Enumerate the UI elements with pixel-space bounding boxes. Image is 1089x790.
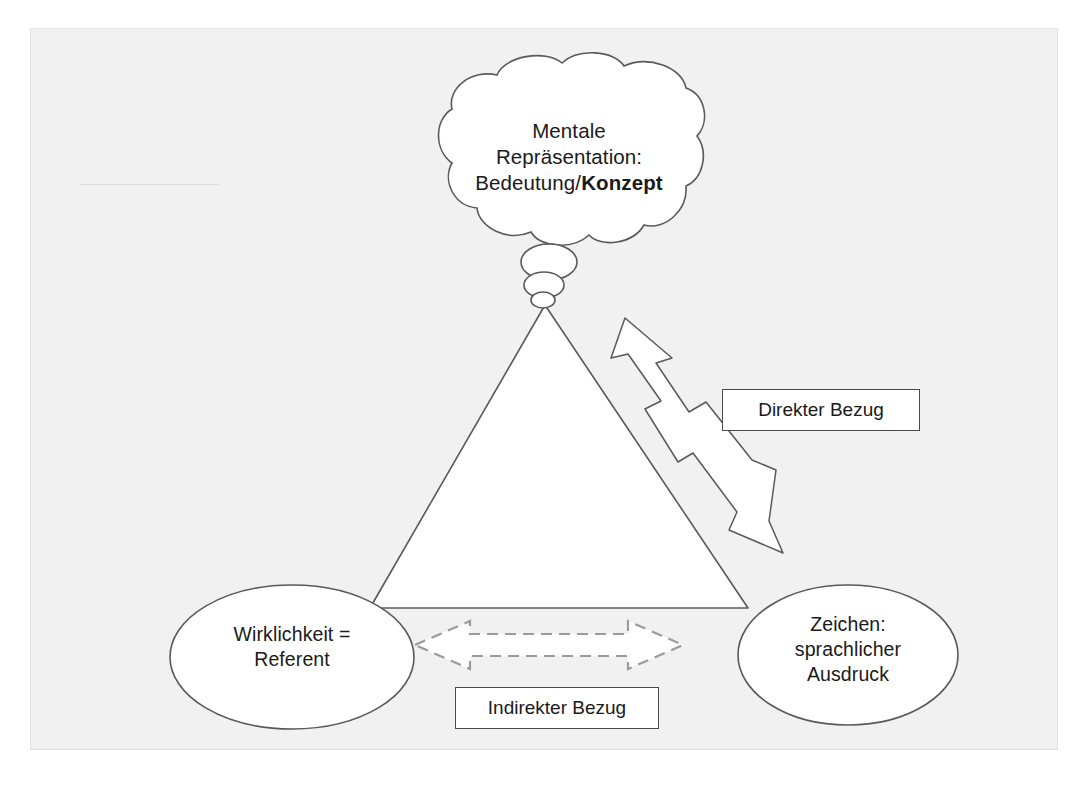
zeichen-label-line1: Zeichen: (742, 612, 954, 637)
direct-relation-caption: Direkter Bezug (722, 389, 920, 431)
cloud-tail-bubble-small (531, 292, 555, 308)
indirect-relation-arrow (415, 621, 683, 669)
cloud-label-line3: Bedeutung/Konzept (440, 170, 698, 196)
cloud-label-line2: Repräsentation: (440, 144, 698, 170)
indirect-relation-caption: Indirekter Bezug (455, 687, 659, 729)
referent-label: Wirklichkeit = Referent (176, 622, 408, 672)
zeichen-label-line2: sprachlicher (742, 637, 954, 662)
referent-label-line2: Referent (176, 647, 408, 672)
page-background: Mentale Repräsentation: Bedeutung/Konzep… (0, 0, 1089, 790)
cloud-label-line1: Mentale (440, 118, 698, 144)
cloud-label-line3-prefix: Bedeutung/ (475, 171, 581, 194)
cloud-label-konzept: Konzept (581, 171, 663, 194)
zeichen-label: Zeichen: sprachlicher Ausdruck (742, 612, 954, 687)
triangle-shape (370, 305, 748, 608)
zeichen-label-line3: Ausdruck (742, 662, 954, 687)
cloud-label: Mentale Repräsentation: Bedeutung/Konzep… (440, 118, 698, 197)
referent-label-line1: Wirklichkeit = (176, 622, 408, 647)
